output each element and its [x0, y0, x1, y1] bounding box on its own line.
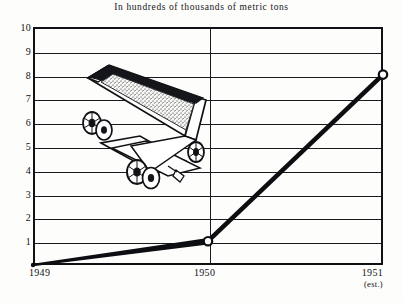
data-series-line — [0, 0, 403, 303]
x-axis-tick-label: 1949 — [29, 267, 50, 278]
series-segment-1949-1950 — [33, 238, 208, 266]
x-axis-tick-label: 1950 — [194, 267, 215, 278]
series-segment-1950-1951 — [208, 75, 383, 242]
x-axis-tick-sublabel: (est.) — [355, 279, 383, 289]
data-point-marker — [379, 70, 387, 78]
data-point-marker — [204, 237, 212, 245]
chart-page: In hundreds of thousands of metric tons … — [0, 0, 403, 303]
x-axis-tick-label: 1951(est.) — [355, 267, 383, 289]
